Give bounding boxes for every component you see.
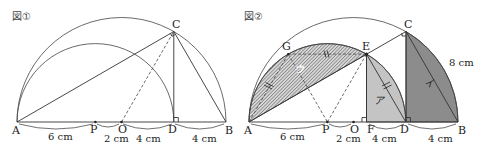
label-c-2: C bbox=[404, 18, 412, 31]
figure-2-title: 図② bbox=[244, 11, 263, 22]
measure-db-2: 4 cm bbox=[428, 133, 453, 144]
region-i-label: イ bbox=[424, 78, 435, 89]
geometry-diagram: 図① A P O D B C 6 cm 2 cm 4 cm 4 cm bbox=[0, 0, 484, 150]
right-angle-d-mark bbox=[174, 118, 179, 123]
measure-po: 2 cm bbox=[104, 133, 129, 144]
measure-od: 4 cm bbox=[136, 133, 161, 144]
figure-1: 図① A P O D B C 6 cm 2 cm 4 cm 4 cm bbox=[11, 11, 233, 144]
label-d-2: D bbox=[400, 123, 409, 136]
measure-ap-2: 6 cm bbox=[280, 131, 305, 142]
measure-cb: 8 cm bbox=[449, 57, 474, 68]
measure-ap: 6 cm bbox=[48, 131, 73, 142]
brace-ap-2 bbox=[251, 124, 325, 129]
segment-ac bbox=[17, 32, 174, 123]
label-b: B bbox=[225, 124, 233, 137]
label-b-2: B bbox=[458, 124, 466, 137]
brace-od bbox=[123, 124, 172, 129]
label-a: A bbox=[11, 124, 21, 137]
measure-po-2: 2 cm bbox=[336, 133, 361, 144]
segment-cb bbox=[174, 32, 226, 123]
brace-po-2 bbox=[329, 124, 351, 127]
label-p: P bbox=[90, 123, 98, 136]
figure-1-title: 図① bbox=[12, 11, 31, 22]
label-c: C bbox=[172, 18, 180, 31]
region-u-label: ウ bbox=[294, 64, 305, 75]
label-g: G bbox=[282, 40, 291, 53]
figure-2: 図② bbox=[243, 11, 474, 144]
brace-ap bbox=[19, 124, 93, 129]
right-angle-f-mark bbox=[362, 118, 367, 123]
label-p-2: P bbox=[322, 123, 330, 136]
brace-db bbox=[175, 124, 224, 129]
segment-oc-dashed bbox=[122, 32, 174, 123]
brace-po bbox=[97, 124, 119, 127]
label-e: E bbox=[362, 40, 370, 53]
label-a-2: A bbox=[243, 124, 253, 137]
point-g bbox=[287, 53, 289, 55]
measure-fd: 4 cm bbox=[372, 133, 397, 144]
outer-semicircle bbox=[17, 17, 226, 122]
brace-db-2 bbox=[408, 124, 456, 129]
measure-db: 4 cm bbox=[192, 133, 217, 144]
